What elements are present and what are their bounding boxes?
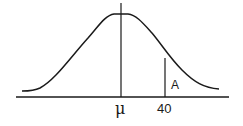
- x-value-label: 40: [157, 102, 171, 115]
- mean-label: μ: [115, 101, 125, 117]
- normal-curve-diagram: μ 40 A: [0, 0, 243, 126]
- area-label: A: [171, 79, 179, 91]
